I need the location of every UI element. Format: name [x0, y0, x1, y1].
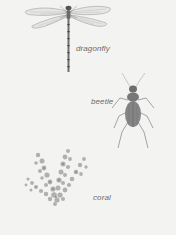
dragonfly-illustration [0, 0, 176, 80]
coral-label: coral [93, 193, 111, 202]
dragonfly-label: dragonfly [76, 44, 110, 53]
beetle-illustration [100, 70, 176, 155]
beetle-label: beetle [91, 97, 113, 106]
specimen-plate: dragonfly [0, 0, 176, 235]
